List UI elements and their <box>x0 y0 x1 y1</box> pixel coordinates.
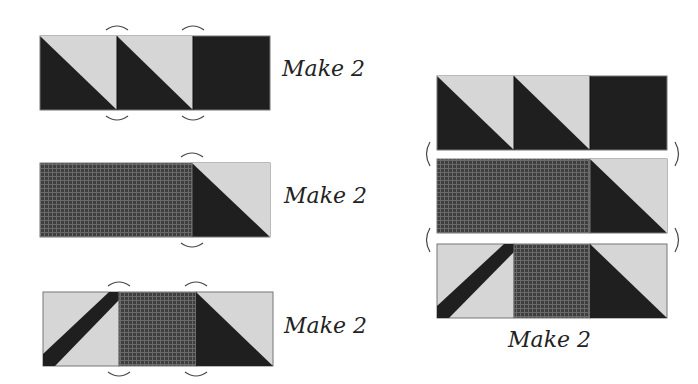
seam-arrow-icon <box>427 228 431 252</box>
assembled-block-label: Make 2 <box>508 327 591 352</box>
seam-arrow-icon <box>182 116 204 120</box>
seam-arrow-icon <box>106 26 128 30</box>
seam-arrow-icon <box>185 282 207 286</box>
seam-arrow-icon <box>108 372 130 376</box>
unit-b-strip <box>40 153 270 247</box>
seam-arrow-icon <box>181 153 203 157</box>
seam-arrow-icon <box>108 282 130 286</box>
assembled-block <box>427 76 679 318</box>
seam-arrow-icon <box>427 142 431 166</box>
seam-arrow-icon <box>182 26 204 30</box>
seam-arrow-icon <box>106 116 128 120</box>
unit-a-label: Make 2 <box>282 56 365 81</box>
seam-arrow-icon <box>675 142 679 166</box>
unit-a-strip <box>40 26 270 120</box>
seam-arrow-icon <box>185 372 207 376</box>
seam-arrow-icon <box>675 228 679 252</box>
unit-c-strip <box>43 282 273 376</box>
unit-c-label: Make 2 <box>284 313 367 338</box>
seam-arrow-icon <box>181 243 203 247</box>
unit-b-label: Make 2 <box>284 183 367 208</box>
